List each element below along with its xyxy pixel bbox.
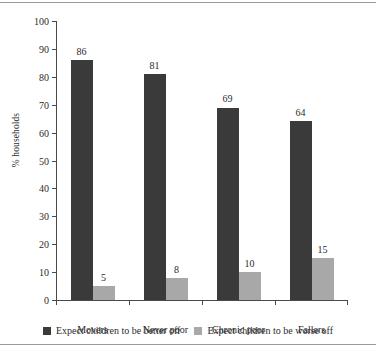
bar: [312, 258, 334, 300]
bar-value-label: 69: [223, 93, 233, 104]
bar-value-label: 15: [318, 244, 328, 255]
y-tick-label: 0: [44, 295, 49, 306]
bar-value-label: 8: [174, 264, 179, 275]
plot-area: 0102030405060708090100865Movers818Never …: [56, 21, 348, 300]
bar: [217, 108, 239, 301]
bar: [166, 278, 188, 300]
bar-value-label: 81: [150, 60, 160, 71]
bar-value-label: 10: [245, 258, 255, 269]
x-tick-mark: [202, 300, 203, 305]
y-tick-label: 30: [39, 211, 49, 222]
y-tick-mark: [52, 161, 56, 162]
y-tick-mark: [52, 244, 56, 245]
y-tick-mark: [52, 133, 56, 134]
bar: [239, 272, 261, 300]
y-tick-label: 100: [34, 16, 49, 27]
bar-value-label: 64: [296, 107, 306, 118]
y-tick-label: 70: [39, 99, 49, 110]
y-tick-mark: [52, 216, 56, 217]
legend-item: Expect children to be better off: [43, 325, 181, 336]
legend-swatch-icon: [194, 327, 202, 335]
x-tick-mark: [347, 300, 348, 305]
y-tick-label: 60: [39, 127, 49, 138]
y-tick-label: 80: [39, 71, 49, 82]
legend-item: Expect children to be worse off: [194, 325, 333, 336]
y-tick-label: 50: [39, 155, 49, 166]
y-tick-mark: [52, 188, 56, 189]
legend-swatch-icon: [43, 327, 51, 335]
y-tick-label: 20: [39, 239, 49, 250]
bar: [144, 74, 166, 300]
bar-value-label: 86: [77, 46, 87, 57]
x-tick-mark: [129, 300, 130, 305]
legend-label: Expect children to be better off: [56, 325, 181, 336]
bar-value-label: 5: [101, 272, 106, 283]
chart-legend: Expect children to be better offExpect c…: [0, 325, 376, 336]
x-tick-mark: [275, 300, 276, 305]
bar: [71, 60, 93, 300]
y-axis-line: [56, 21, 57, 300]
y-tick-mark: [52, 105, 56, 106]
y-axis-title: % households: [11, 90, 21, 190]
y-tick-mark: [52, 49, 56, 50]
legend-label: Expect children to be worse off: [207, 325, 333, 336]
y-tick-mark: [52, 272, 56, 273]
y-tick-label: 10: [39, 267, 49, 278]
bar: [290, 121, 312, 300]
bar-chart-figure: % households 0102030405060708090100865Mo…: [0, 0, 376, 353]
y-tick-mark: [52, 77, 56, 78]
y-tick-mark: [52, 21, 56, 22]
y-tick-label: 90: [39, 43, 49, 54]
bar: [93, 286, 115, 300]
x-tick-mark: [56, 300, 57, 305]
y-tick-label: 40: [39, 183, 49, 194]
